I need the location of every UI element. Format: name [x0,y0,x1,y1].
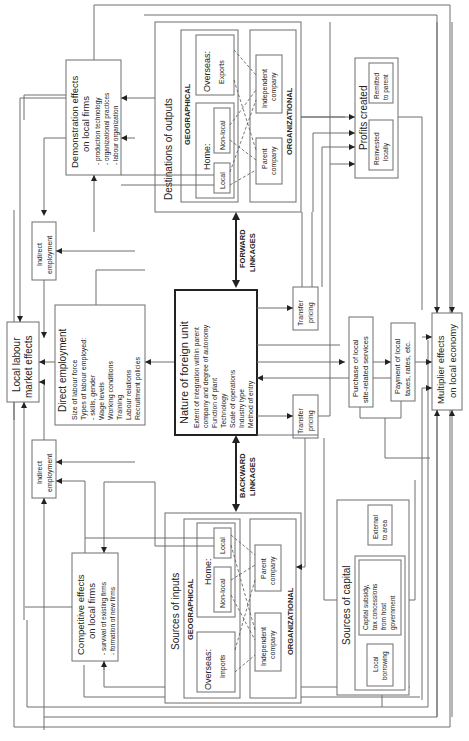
svg-text:Transfer: Transfer [297,300,304,326]
svg-text:- survival of existing firms: - survival of existing firms [100,581,108,655]
payment-local-taxes-box: Payment of local taxes, rates, etc. [391,323,415,401]
svg-text:Exports: Exports [218,60,226,84]
svg-text:site-related services: site-related services [361,336,370,403]
nature-of-foreign-unit-box: Nature of foreign unit Extent of integra… [175,290,257,435]
svg-text:LINKAGES: LINKAGES [248,457,257,496]
svg-text:Indirect: Indirect [36,243,43,266]
svg-text:Local: Local [219,537,226,554]
svg-text:Local labour: Local labour [11,337,22,392]
svg-text:- labour organization: - labour organization [112,105,120,165]
svg-text:Remitted: Remitted [373,73,380,99]
svg-text:Non-local: Non-local [219,578,226,608]
svg-text:Purchase of local: Purchase of local [351,339,360,397]
svg-text:borrowing: borrowing [381,651,389,680]
competitive-effects-box: Competitive effects on local firms - sur… [72,553,118,661]
svg-text:Industry type: Industry type [238,389,246,428]
svg-text:taxes, rates, etc.: taxes, rates, etc. [403,341,412,396]
svg-text:company and degree of autonomy: company and degree of autonomy [202,324,210,428]
svg-text:Imports: Imports [219,654,227,678]
svg-text:ORGANIZATIONAL: ORGANIZATIONAL [286,587,295,655]
indirect-employment-bottom-box: Indirect employment [32,440,56,498]
backward-linkages-label: BACKWARD LINKAGES [238,453,257,498]
svg-text:Overseas:: Overseas: [203,649,213,690]
svg-text:- production technology: - production technology [94,97,102,165]
svg-text:pricing: pricing [307,410,315,431]
svg-text:to area: to area [381,519,388,540]
svg-text:BACKWARD: BACKWARD [238,453,247,498]
svg-text:Payment of local: Payment of local [393,338,402,394]
svg-text:Indirect: Indirect [36,461,43,484]
svg-text:Home:: Home: [202,143,212,170]
indirect-employment-top-box: Indirect employment [32,222,56,280]
svg-text:Recruitment policies: Recruitment policies [134,356,142,420]
svg-text:on local economy: on local economy [447,324,458,398]
svg-text:company: company [269,630,277,659]
inputs-title: Sources of inputs [170,573,181,650]
svg-text:tax concessions: tax concessions [371,583,378,630]
svg-text:Local: Local [219,172,226,189]
sources-of-inputs-box: Sources of inputs GEOGRAPHICAL Home: Loc… [165,513,301,703]
svg-text:- organizational practices: - organizational practices [103,92,111,165]
svg-text:company: company [270,146,278,175]
svg-text:External: External [372,515,379,539]
multiplier-effects-box: Multiplier effects on local economy [432,313,462,410]
svg-text:on local firms: on local firms [86,583,97,639]
svg-text:from host: from host [380,603,387,630]
capital-title: Sources of capital [341,566,352,646]
svg-text:Multiplier effects: Multiplier effects [435,335,446,404]
svg-text:Independent: Independent [260,627,268,666]
direct-employment-title: Direct employment [57,328,68,412]
svg-text:company: company [270,72,278,101]
svg-text:GEOGRAPHICAL: GEOGRAPHICAL [186,578,195,640]
svg-text:- formation of new firms: - formation of new firms [109,586,116,655]
purchase-site-services-box: Purchase of local site-related services [349,317,373,407]
svg-text:employment: employment [46,236,54,274]
svg-text:employment: employment [46,454,54,492]
svg-text:ORGANIZATIONAL: ORGANIZATIONAL [285,87,294,155]
destinations-of-outputs-box: Destinations of outputs GEOGRAPHICAL Ove… [155,22,301,212]
svg-text:Overseas:: Overseas: [202,51,212,92]
svg-text:Reinvested: Reinvested [373,132,380,165]
svg-text:Parent: Parent [260,558,267,579]
svg-text:on local firms: on local firms [80,96,91,152]
svg-text:Size of labour force: Size of labour force [71,360,78,420]
svg-text:Working conditions: Working conditions [107,360,115,420]
svg-text:Training: Training [116,395,124,420]
profits-created-box: Profits created Remitted to parent Reinv… [355,58,398,178]
svg-text:government: government [389,595,397,630]
svg-text:company: company [269,556,277,585]
svg-text:to parent: to parent [382,74,390,100]
svg-text:- skills, gender: - skills, gender [89,374,97,420]
svg-text:Capital subsidy,: Capital subsidy, [362,584,370,630]
foreign-unit-linkages-diagram: Demonstration effects on local firms - p… [0,0,469,741]
svg-text:Technology: Technology [220,393,228,428]
svg-text:Function of plant: Function of plant [211,378,219,428]
svg-text:Types of labour employed:: Types of labour employed: [80,338,88,420]
svg-text:market effects: market effects [23,335,34,398]
svg-text:Extent of integration within p: Extent of integration within parent [193,327,201,428]
svg-text:pricing: pricing [307,302,315,323]
svg-text:Scale of operations: Scale of operations [229,369,237,428]
direct-employment-box: Direct employment Size of labour force T… [55,305,145,425]
demonstration-title: Demonstration effects [69,76,80,168]
svg-text:Home:: Home: [203,558,213,585]
svg-text:GEOGRAPHICAL: GEOGRAPHICAL [183,83,192,145]
demonstration-effects-box: Demonstration effects on local firms - p… [66,60,121,175]
transfer-pricing-bottom-box: Transfer pricing [293,395,318,438]
svg-text:FORWARD: FORWARD [238,229,247,268]
svg-text:Non-local: Non-local [219,120,226,150]
local-labour-market-box: Local labour market effects [7,322,39,402]
svg-text:Wage levels: Wage levels [98,382,106,420]
svg-text:Transfer: Transfer [297,408,304,434]
transfer-pricing-top-box: Transfer pricing [293,287,318,330]
svg-text:Method of entry: Method of entry [247,380,255,428]
profits-title: Profits created [358,86,369,150]
svg-text:Local: Local [372,656,379,672]
svg-text:Parent: Parent [261,148,268,169]
svg-text:LINKAGES: LINKAGES [248,233,257,272]
competitive-title: Competitive effects [75,574,86,655]
forward-linkages-label: FORWARD LINKAGES [238,229,257,272]
center-title: Nature of foreign unit [178,321,190,424]
svg-text:locally: locally [382,142,390,161]
svg-text:Labour relations: Labour relations [125,369,132,420]
